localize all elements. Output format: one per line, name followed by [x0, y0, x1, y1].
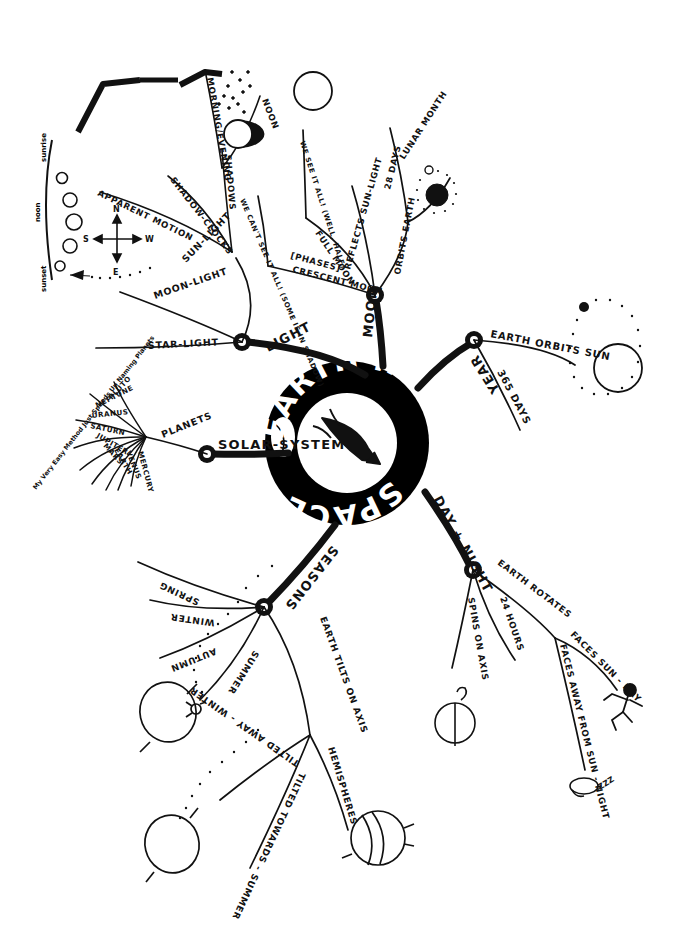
branch-label-solar[interactable]: SOLAR-SYSTEM: [218, 437, 345, 452]
label-sunset: sunset: [40, 265, 48, 292]
compass-label-w: W: [145, 235, 154, 244]
mindmap-canvas: EARTH IN SPACE: [0, 0, 673, 934]
mindmap-svg: EARTH IN SPACE: [0, 0, 673, 934]
compass-label-s: S: [83, 235, 89, 244]
label-noon-arc: noon: [34, 202, 42, 222]
compass-label-n: N: [113, 205, 120, 214]
compass-label-e: E: [113, 268, 118, 277]
label-sunrise: sunrise: [40, 133, 48, 162]
trunk-solar[interactable]: [211, 453, 288, 454]
